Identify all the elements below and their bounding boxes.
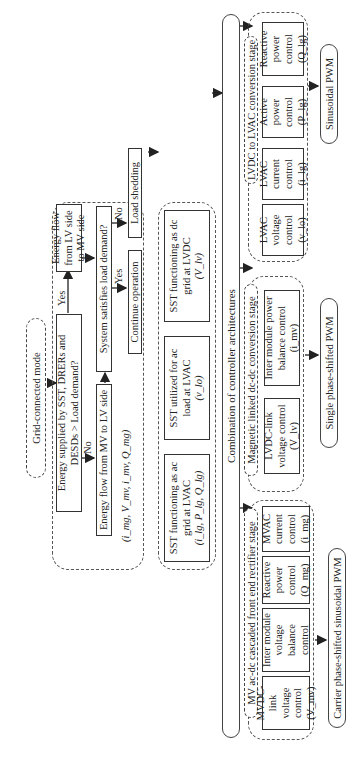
mode-ac-grid-vars: (i_lg, P_lg, Q_lg) [193,471,206,546]
inter-module-voltage-box: Inter module voltage balance control [262,608,310,672]
q2-no-label: No [113,207,124,220]
continue-operation-text: Continue operation [129,262,142,343]
lvdc-link-voltage-box: LVDC-link voltage control (V_lv) [264,398,300,474]
mv-to-lv-text: Energy flow from MV to LV side [98,390,111,530]
lv-to-mv-text: Energy flow from LV side to MV side [50,208,88,268]
load-shedding-box: Load shedding [128,148,142,238]
q1-no-label: No [82,441,93,454]
mode-ac-grid-text: SST functioning as ac grid at LVAC [168,458,193,558]
pwm-carrier-phase-shifted: Carrier phase-shifted sinusoidal PWM [328,548,346,728]
continue-operation-box: Continue operation [128,250,142,354]
mvac-current-text: MVAC current control (i_mg) [261,510,311,548]
stage-dcdc-title: Magnetic linked dc-dc conversion stage [244,284,258,476]
stage-dcdc-title-text: Magnetic linked dc-dc conversion stage [246,296,257,463]
stage-lvac-title: LVDC to LVAC conversion stage [244,36,258,184]
mv-to-lv-box: Energy flow from MV to LV side [96,384,112,536]
mode-dc-grid-box: SST functioning as dc grid at LVDC (V_lv… [164,210,210,322]
lvac-voltage-box: LVAC voltage control (v_lo) [262,204,304,256]
reactive-power-lv-box: Reactive power control (Q_lg) [262,22,304,76]
lvac-current-box: LVAC current control (i_lg) [262,148,304,200]
pwm-single-text: Single phase-shifted PWM [324,316,335,429]
mvdc-link-voltage-text: MVDC-link voltage control (V_mv) [255,680,318,726]
inter-module-power-box: Inter module power balance control (i_mv… [264,290,300,386]
q2-text: System satisfies load demand? [98,225,111,354]
q2-yes-label: Yes [113,269,124,284]
diagram-canvas: Grid-connected mode Energy supplied by S… [0,0,360,758]
reactive-power-lv-text: Reactive power control (Q_lg) [258,26,308,72]
q2-system-satisfies-box: System satisfies load demand? [96,206,112,372]
pwm-carrier-text: Carrier phase-shifted sinusoidal PWM [332,557,343,718]
mode-ac-load-vars: (v_lo) [193,375,206,400]
combination-label: Combination of controller architectures [225,289,237,463]
mvdc-link-voltage-box: MVDC-link voltage control (V_mv) [262,676,310,730]
pwm-sinusoidal: Sinusoidal PWM [320,44,338,144]
lvac-voltage-text: LVAC voltage control (v_lo) [258,208,308,252]
grid-connected-mode-start: Grid-connected mode [26,318,46,478]
mode-ac-load-box: SST utilized for ac load at LVAC (v_lo) [164,336,210,440]
pwm-sinusoidal-text: Sinusoidal PWM [324,58,335,130]
decision-variables: (i_mg, V_mv, i_mv, Q_mg) [120,430,131,542]
lvac-current-text: LVAC current control (i_lg) [258,152,308,196]
mode-ac-grid-box: SST functioning as ac grid at LVAC (i_lg… [164,454,210,562]
inter-module-power-text: Inter module power balance control (i_mv… [263,294,301,382]
stage-mv-title-text: MV ac-dc cascaded front end rectifier st… [246,521,257,704]
lv-to-mv-box: Energy flow from LV side to MV side [56,204,82,272]
combination-bar: Combination of controller architectures [222,14,240,738]
q1-load-demand-box: Energy supplied by SST, DRERs and DESDs … [56,314,82,512]
active-power-box: Active power control (P_lg) [262,86,304,138]
load-shedding-text: Load shedding [129,162,142,224]
pwm-single-phase-shifted: Single phase-shifted PWM [320,298,338,448]
mode-dc-grid-text: SST functioning as dc grid at LVDC [168,214,193,318]
mode-ac-load-text: SST utilized for ac load at LVAC [168,340,193,436]
stage-lvac-title-text: LVDC to LVAC conversion stage [246,40,257,180]
start-label: Grid-connected mode [31,352,42,443]
mode-dc-grid-vars: (V_lv) [193,253,206,279]
reactive-power-mv-box: Reactive power control (Q_mg) [262,556,310,604]
q1-text: Energy supplied by SST, DRERs and DESDs … [56,318,81,508]
lvdc-link-voltage-text: LVDC-link voltage control (V_lv) [263,402,301,470]
mvac-current-box: MVAC current control (i_mg) [262,506,310,552]
inter-module-voltage-text: Inter module voltage balance control [261,612,311,668]
reactive-power-mv-text: Reactive power control (Q_mg) [261,560,311,600]
q1-yes-label: Yes [56,291,67,306]
active-power-text: Active power control (P_lg) [258,90,308,134]
